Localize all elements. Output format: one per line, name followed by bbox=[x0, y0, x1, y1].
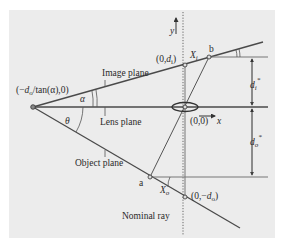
point-b-label: b bbox=[209, 44, 214, 54]
y-axis-label: y bbox=[169, 26, 175, 36]
point-a bbox=[148, 175, 152, 179]
object-point bbox=[183, 195, 187, 199]
object-plane-label: Object plane bbox=[75, 158, 123, 168]
lens-geometry-diagram: Image plane Lens plane Object plane Nomi… bbox=[0, 0, 284, 243]
origin-point bbox=[183, 105, 187, 109]
point-b bbox=[207, 55, 211, 59]
lens-plane-label: Lens plane bbox=[100, 117, 141, 127]
image-point bbox=[183, 63, 187, 67]
nominal-ray-label: Nominal ray bbox=[122, 211, 170, 221]
apex-point bbox=[31, 105, 36, 110]
origin-label: (0,0) bbox=[190, 116, 208, 127]
image-plane-label: Image plane bbox=[102, 68, 149, 78]
x-axis-label: x bbox=[216, 116, 222, 126]
theta-label: θ bbox=[65, 116, 70, 126]
diagram-panel bbox=[9, 10, 275, 238]
